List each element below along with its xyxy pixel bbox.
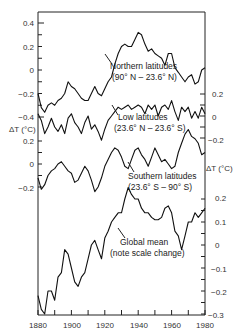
y-tick-north-4: −0.4 <box>18 113 34 122</box>
y-tick-low-0: 0.2 <box>212 90 224 99</box>
pointer-northern <box>105 54 112 64</box>
y-tick-north-3: −0.2 <box>18 90 34 99</box>
x-tick-1960: 1960 <box>163 321 181 330</box>
label-southern: Southern latitudes <box>128 171 197 181</box>
label-northern-range: (90° N – 23.6° N) <box>112 72 177 82</box>
y-tick-global-0: 0.2 <box>215 194 227 203</box>
y-tick-global-5: −0.3 <box>208 311 224 320</box>
label-southern-range: (23.6° S – 90° S) <box>128 182 192 192</box>
x-tick-1980: 1980 <box>196 321 214 330</box>
x-tick-1880: 1880 <box>29 321 47 330</box>
y-tick-south-2: −0.2 <box>18 184 34 193</box>
label-global: Global mean <box>120 237 168 247</box>
y-axis-label-right: ΔT (°C) <box>206 164 233 173</box>
y-tick-south-1: 0 <box>30 160 35 169</box>
y-tick-north-1: 0.2 <box>23 43 35 52</box>
y-tick-global-1: 0.1 <box>215 218 227 227</box>
y-axis-label-left: ΔT (°C) <box>9 125 36 134</box>
y-tick-global-2: 0 <box>215 241 220 250</box>
x-tick-1900: 1900 <box>63 321 81 330</box>
x-tick-1940: 1940 <box>130 321 148 330</box>
x-tick-1920: 1920 <box>96 321 114 330</box>
label-global-note: (note scale change) <box>110 248 185 258</box>
y-tick-north-0: 0.4 <box>23 19 35 28</box>
y-tick-low-1: 0 <box>212 113 217 122</box>
y-tick-south-0: 0.2 <box>23 137 35 146</box>
label-low: Low latitudes <box>118 112 168 122</box>
y-tick-global-3: −0.1 <box>211 265 227 274</box>
label-northern: Northern latitudes <box>110 61 177 71</box>
temperature-anomaly-chart: 0.4 0.2 0 −0.2 −0.4 ΔT (°C) 0.2 0 −0.2 0… <box>0 0 244 334</box>
y-tick-north-2: 0 <box>30 66 35 75</box>
label-low-range: (23.6° N – 23.6° S) <box>114 123 186 133</box>
y-tick-low-2: −0.2 <box>208 136 224 145</box>
y-tick-global-4: −0.2 <box>211 288 227 297</box>
